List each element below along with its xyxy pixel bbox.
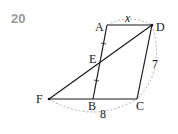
- measure-dc: 7: [152, 57, 158, 71]
- tick-eb: [94, 80, 99, 81]
- segment-dc: [137, 25, 152, 99]
- tick-ae: [101, 43, 106, 44]
- geometry-diagram: A D E F B C x 7 8: [0, 0, 178, 134]
- label-f: F: [36, 92, 43, 106]
- measure-ad: x: [124, 11, 131, 25]
- label-e: E: [89, 52, 96, 66]
- measure-fc: 8: [100, 107, 106, 121]
- point-d: [151, 24, 154, 27]
- point-f: [48, 98, 51, 101]
- label-b: B: [88, 99, 96, 113]
- segment-fd: [49, 25, 152, 99]
- label-d: D: [156, 20, 165, 34]
- label-c: C: [136, 99, 144, 113]
- label-a: A: [95, 20, 104, 34]
